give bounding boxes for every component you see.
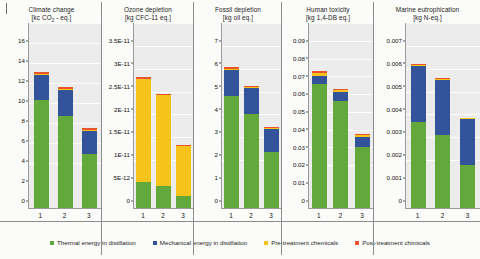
bar-group: [406, 23, 480, 208]
y-tick-label: 0.06: [293, 90, 305, 97]
y-axis: 01234567: [195, 23, 221, 221]
chart-panel-row: Climate change[kc CO2 - eq.]024681012141…: [0, 0, 480, 221]
y-tick-label: 0.01: [293, 179, 305, 186]
y-tick-label: 5: [215, 82, 218, 89]
x-tick-label: 3: [81, 212, 96, 219]
y-tick-label: 6: [22, 137, 25, 144]
bar-group: [309, 23, 373, 208]
bar-segment-thermal: [136, 182, 151, 208]
y-axis: 00.010.020.030.040.050.060.070.080.09: [283, 23, 308, 221]
y-tick-label: 0.02: [293, 161, 305, 168]
legend-swatch-mechanical: [153, 241, 157, 245]
plot-canvas: [28, 23, 101, 209]
chart-panel-3: Fossil depletion[kg oil eq.]01234567123: [193, 6, 281, 221]
panel-title-text: Ozone depletion: [124, 6, 172, 13]
stacked-bar[interactable]: [312, 23, 327, 208]
stacked-bar[interactable]: [355, 23, 370, 208]
plot-canvas: [405, 23, 480, 209]
bar-segment-pre: [176, 146, 191, 196]
panel-unit-text: [kg 1,4-DB eq.]: [285, 14, 371, 22]
y-tick-label: 1.5E-11: [109, 128, 130, 135]
y-tick-label: 1E-11: [114, 151, 130, 158]
x-tick-label: 2: [156, 212, 171, 219]
y-tick-label: 4: [215, 105, 218, 112]
bar-segment-thermal: [156, 186, 171, 208]
bar-segment-thermal: [411, 122, 426, 208]
stacked-bar[interactable]: [435, 23, 450, 208]
bar-segment-pre: [136, 79, 151, 183]
stacked-bar[interactable]: [156, 23, 171, 208]
stacked-bar[interactable]: [82, 23, 97, 208]
y-tick-label: 4: [22, 157, 25, 164]
x-axis-labels: 123: [405, 209, 480, 221]
legend-swatch-post: [355, 241, 359, 245]
bar-segment-mechanical: [82, 131, 97, 154]
stacked-bar[interactable]: [264, 23, 279, 208]
stacked-bar[interactable]: [176, 23, 191, 208]
y-tick-label: 1: [215, 174, 218, 181]
legend-swatch-pre: [264, 241, 268, 245]
bar-segment-thermal: [82, 154, 97, 208]
bar-segment-thermal: [435, 135, 450, 208]
chart-panel-5: Marine eutrophication[kg N-eq.]00.0010.0…: [373, 6, 480, 221]
bar-segment-thermal: [34, 100, 49, 208]
stacked-bar[interactable]: [34, 23, 49, 208]
figure-root: Climate change[kc CO2 - eq.]024681012141…: [0, 0, 480, 259]
x-tick-label: 3: [264, 212, 279, 219]
bar-segment-mechanical: [333, 92, 348, 101]
stacked-bar[interactable]: [460, 23, 475, 208]
panel-unit-text: [kg CFC-11 eq.]: [105, 14, 191, 22]
x-axis-labels: 123: [28, 209, 101, 221]
panel-unit-text: [kg oil eq.]: [197, 14, 279, 22]
x-axis-labels: 123: [308, 209, 373, 221]
y-tick-label: 2: [215, 151, 218, 158]
y-tick-label: 0.001: [387, 174, 402, 181]
y-tick-label: 2E-11: [114, 105, 130, 112]
plot-area: 01234567123: [195, 23, 281, 221]
legend-item-post[interactable]: Post-treatment chimicals: [355, 239, 430, 246]
stacked-bar[interactable]: [58, 23, 73, 208]
bar-segment-thermal: [58, 116, 73, 208]
x-tick-label: 1: [311, 212, 326, 219]
stacked-bar[interactable]: [136, 23, 151, 208]
y-axis: 05E-121E-111.5E-112E-112.5E-113E-113.5E-…: [103, 23, 133, 221]
x-tick-label: 2: [435, 212, 450, 219]
y-tick-label: 2: [22, 177, 25, 184]
stacked-bar[interactable]: [333, 23, 348, 208]
x-tick-label: 3: [176, 212, 191, 219]
legend-item-thermal[interactable]: Thermal energy in distillation: [50, 239, 136, 246]
plot-canvas: [133, 23, 193, 209]
panel-unit-text: [kg N-eq.]: [377, 14, 478, 22]
plot-area: 00.0010.0020.0030.0040.0050.0060.007123: [375, 23, 480, 221]
chart-panel-2: Ozone depletion[kg CFC-11 eq.]05E-121E-1…: [101, 6, 193, 221]
x-axis-labels: 123: [133, 209, 193, 221]
bar-segment-mechanical: [435, 80, 450, 136]
y-tick-label: 0.004: [387, 105, 402, 112]
y-tick-label: 0.006: [387, 59, 402, 66]
chart-panel-1: Climate change[kc CO2 - eq.]024681012141…: [0, 6, 101, 221]
plot-holder: 123: [221, 23, 281, 221]
legend-item-mechanical[interactable]: Mechanical energy in distillation: [153, 239, 247, 246]
y-tick-label: 8: [22, 117, 25, 124]
bar-segment-thermal: [176, 196, 191, 208]
panel-title-text: Marine eutrophication: [396, 6, 460, 13]
stacked-bar[interactable]: [411, 23, 426, 208]
panel-title: Climate change[kc CO2 - eq.]: [2, 6, 101, 23]
stacked-bar[interactable]: [224, 23, 239, 208]
y-tick-label: 3: [215, 128, 218, 135]
panel-title: Ozone depletion[kg CFC-11 eq.]: [103, 6, 193, 23]
x-tick-label: 2: [244, 212, 259, 219]
bar-segment-pre: [156, 95, 171, 186]
legend-label: Thermal energy in distillation: [57, 239, 136, 246]
plot-holder: 123: [133, 23, 193, 221]
stacked-bar[interactable]: [244, 23, 259, 208]
bar-segment-thermal: [333, 101, 348, 208]
bar-segment-thermal: [312, 84, 327, 208]
legend-label: Mechanical energy in distillation: [160, 239, 247, 246]
y-tick-label: 0: [215, 197, 218, 204]
plot-canvas: [221, 23, 281, 209]
y-tick-label: 0.03: [293, 143, 305, 150]
legend-item-pre[interactable]: Pre-treatment chemicals: [264, 239, 338, 246]
y-tick-label: 16: [18, 37, 25, 44]
y-tick-label: 0.07: [293, 72, 305, 79]
